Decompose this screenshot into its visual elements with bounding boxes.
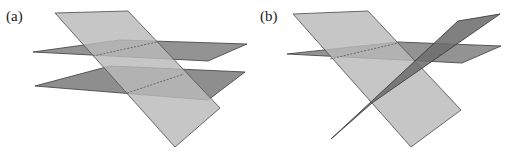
panel-b: (b) xyxy=(260,8,501,147)
slanted-plane xyxy=(293,11,461,147)
diagram-canvas: (a) (b) xyxy=(0,0,516,152)
panel-a: (a) xyxy=(6,8,247,147)
panel-label: (b) xyxy=(260,8,278,25)
panel-label: (a) xyxy=(6,8,23,25)
